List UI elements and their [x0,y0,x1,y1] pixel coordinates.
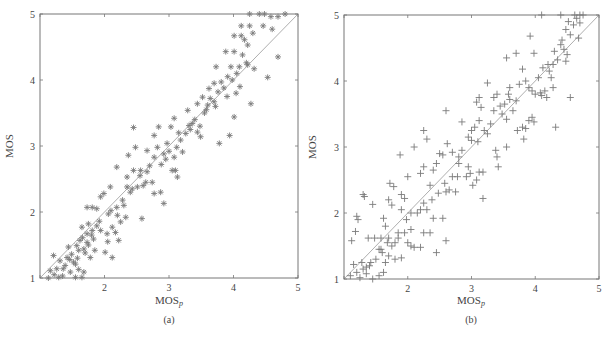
y-tick-label: 5 [30,9,35,20]
panel-caption: (b) [465,314,477,326]
y-axis-label: MOS [3,134,15,158]
scatter-panel-a: 234512345MOSpMOS(a) [3,9,301,327]
y-tick-label: 1 [30,273,35,284]
x-tick-label: 5 [597,283,602,294]
scatter-panel-b: 234512345MOSpMOS(b) [306,10,602,327]
y-tick-label: 5 [334,10,339,21]
panel-caption: (a) [163,314,174,326]
x-tick-label: 4 [231,282,236,293]
data-points [45,11,288,281]
y-tick-label: 1 [334,274,339,285]
x-axis-label: MOSp [155,294,183,308]
reference-line [344,15,599,279]
y-tick-label: 4 [334,76,339,87]
figure: 234512345MOSpMOS(a) 234512345MOSpMOS(b) [0,0,612,343]
x-tick-label: 4 [533,283,538,294]
y-tick-label: 2 [334,208,339,219]
x-tick-label: 2 [102,282,107,293]
x-tick-label: 3 [167,282,172,293]
x-tick-label: 5 [296,282,301,293]
y-axis-label: MOS [306,135,318,159]
y-tick-label: 2 [30,207,35,218]
x-tick-label: 3 [469,283,474,294]
reference-line [40,14,298,278]
x-axis-label: MOSp [457,294,485,308]
y-tick-label: 3 [30,141,35,152]
x-tick-label: 2 [405,283,410,294]
y-tick-label: 4 [30,75,35,86]
data-points [347,12,587,283]
y-tick-label: 3 [334,142,339,153]
